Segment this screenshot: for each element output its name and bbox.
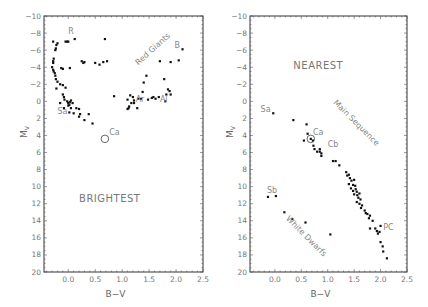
y-tick-label: 6 xyxy=(36,148,41,157)
chart-brightest: −10−8−6−4−2024681012141618200.00.51.01.5… xyxy=(19,12,209,300)
plot-frame xyxy=(44,16,203,272)
data-point xyxy=(283,211,285,213)
data-point xyxy=(54,75,56,77)
y-tick-label: 16 xyxy=(31,233,41,242)
y-tick-label: 14 xyxy=(237,216,247,225)
annotation-label: Ar xyxy=(136,95,145,104)
data-point xyxy=(358,203,360,205)
y-tick-label: −6 xyxy=(30,46,41,55)
data-point xyxy=(51,66,53,68)
y-tick-label: 4 xyxy=(242,131,247,140)
y-tick-label: 6 xyxy=(242,148,247,157)
data-point xyxy=(356,191,358,193)
y-tick-label: 12 xyxy=(237,199,247,208)
data-point xyxy=(71,102,73,104)
data-point xyxy=(54,49,56,51)
data-point xyxy=(54,72,56,74)
data-point xyxy=(126,99,128,101)
data-point xyxy=(372,220,374,222)
data-point xyxy=(159,60,161,62)
y-tick-label: 20 xyxy=(31,268,41,277)
highlight-circle xyxy=(101,135,109,143)
data-point xyxy=(275,195,277,197)
data-point xyxy=(70,107,72,109)
x-tick-label: 1.0 xyxy=(116,275,128,284)
data-point xyxy=(154,98,156,100)
y-tick-label: −4 xyxy=(236,63,247,72)
data-point xyxy=(79,113,81,115)
data-point xyxy=(272,112,274,114)
y-axis-label: MV xyxy=(19,125,30,138)
data-point xyxy=(320,152,322,154)
y-tick-label: −6 xyxy=(236,46,247,55)
x-axis-label: B−V xyxy=(311,289,332,299)
annotation-label: White Dwarfs xyxy=(284,214,328,258)
annotation-label: Red Giants xyxy=(134,31,172,67)
y-tick-label: −8 xyxy=(236,29,247,38)
y-tick-label: 16 xyxy=(237,233,247,242)
data-point xyxy=(55,44,57,46)
data-point xyxy=(360,207,362,209)
data-point xyxy=(376,230,378,232)
y-tick-label: 10 xyxy=(31,182,41,191)
data-point xyxy=(364,209,366,211)
data-point xyxy=(78,108,80,110)
data-point xyxy=(168,90,170,92)
chart-title: BRIGHTEST xyxy=(79,193,141,204)
data-point xyxy=(356,201,358,203)
data-point xyxy=(332,160,334,162)
data-point xyxy=(67,105,69,107)
data-point xyxy=(181,48,183,50)
y-axis-label: MV xyxy=(225,125,236,138)
data-point xyxy=(59,102,61,104)
data-point xyxy=(319,148,321,150)
data-point xyxy=(354,185,356,187)
data-point xyxy=(374,227,376,229)
data-point xyxy=(91,122,93,124)
y-tick-label: 0 xyxy=(36,97,41,106)
data-point xyxy=(52,62,54,64)
data-point xyxy=(382,250,384,252)
data-point xyxy=(69,67,71,69)
data-point xyxy=(379,225,381,227)
data-point xyxy=(329,233,331,235)
data-point xyxy=(63,99,65,101)
data-point xyxy=(292,119,294,121)
y-tick-label: 2 xyxy=(36,114,41,123)
data-point xyxy=(63,96,65,98)
annotation-label: Al xyxy=(160,95,168,104)
data-point xyxy=(52,41,54,43)
data-point xyxy=(305,123,307,125)
data-point xyxy=(353,179,355,181)
data-point xyxy=(335,160,337,162)
data-point xyxy=(53,58,55,60)
y-tick-label: −8 xyxy=(30,29,41,38)
annotation-label: Ca xyxy=(109,128,120,137)
data-point xyxy=(94,62,96,64)
data-point xyxy=(349,177,351,179)
y-tick-label: 8 xyxy=(242,165,247,174)
data-point xyxy=(378,231,380,233)
y-tick-label: −2 xyxy=(30,80,41,89)
annotation-label: Sa xyxy=(261,105,271,114)
data-point xyxy=(170,93,172,95)
x-tick-label: 0.5 xyxy=(89,275,101,284)
annotation-label: Sa xyxy=(57,107,67,116)
x-tick-label: 1.0 xyxy=(322,275,334,284)
data-point xyxy=(178,59,180,61)
data-point xyxy=(62,68,64,70)
data-point xyxy=(313,148,315,150)
data-point xyxy=(62,93,64,95)
data-point xyxy=(369,215,371,217)
data-point xyxy=(78,116,80,118)
data-point xyxy=(350,180,352,182)
x-tick-label: 2.5 xyxy=(401,275,413,284)
data-point xyxy=(338,164,340,166)
data-point xyxy=(352,190,354,192)
y-tick-label: 0 xyxy=(242,97,247,106)
annotation-label: Cb xyxy=(328,140,339,149)
data-point xyxy=(359,198,361,200)
data-point xyxy=(128,105,130,107)
x-tick-label: 2.5 xyxy=(197,275,209,284)
data-point xyxy=(352,184,354,186)
